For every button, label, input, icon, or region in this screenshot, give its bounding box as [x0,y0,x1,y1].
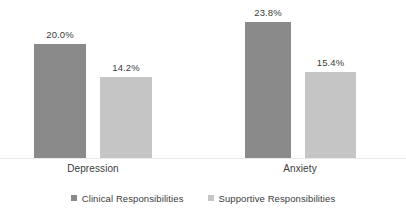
bar-depression-supportive [100,77,152,158]
category-label-anxiety: Anxiety [240,163,360,174]
chart-legend: Clinical ResponsibilitiesSupportive Resp… [0,190,406,206]
category-axis-labels: DepressionAnxiety [0,163,406,181]
plot-area: 20.0%14.2%23.8%15.4% [0,0,406,159]
bar-depression-clinical [34,44,86,158]
legend-item-supportive[interactable]: Supportive Responsibilities [208,193,336,204]
legend-swatch-icon [208,195,214,201]
bar-value-label-depression-clinical: 20.0% [34,29,86,40]
bar-anxiety-supportive [305,72,356,158]
legend-label: Clinical Responsibilities [82,193,184,204]
legend-label: Supportive Responsibilities [219,193,336,204]
bar-value-label-depression-supportive: 14.2% [100,62,152,73]
grouped-bar-chart: 20.0%14.2%23.8%15.4% DepressionAnxiety C… [0,0,406,213]
axis-baseline [0,158,406,159]
category-label-depression: Depression [33,163,153,174]
bar-value-label-anxiety-supportive: 15.4% [305,57,356,68]
legend-item-clinical[interactable]: Clinical Responsibilities [71,193,184,204]
bar-anxiety-clinical [245,22,291,158]
legend-swatch-icon [71,195,77,201]
bar-value-label-anxiety-clinical: 23.8% [245,7,291,18]
